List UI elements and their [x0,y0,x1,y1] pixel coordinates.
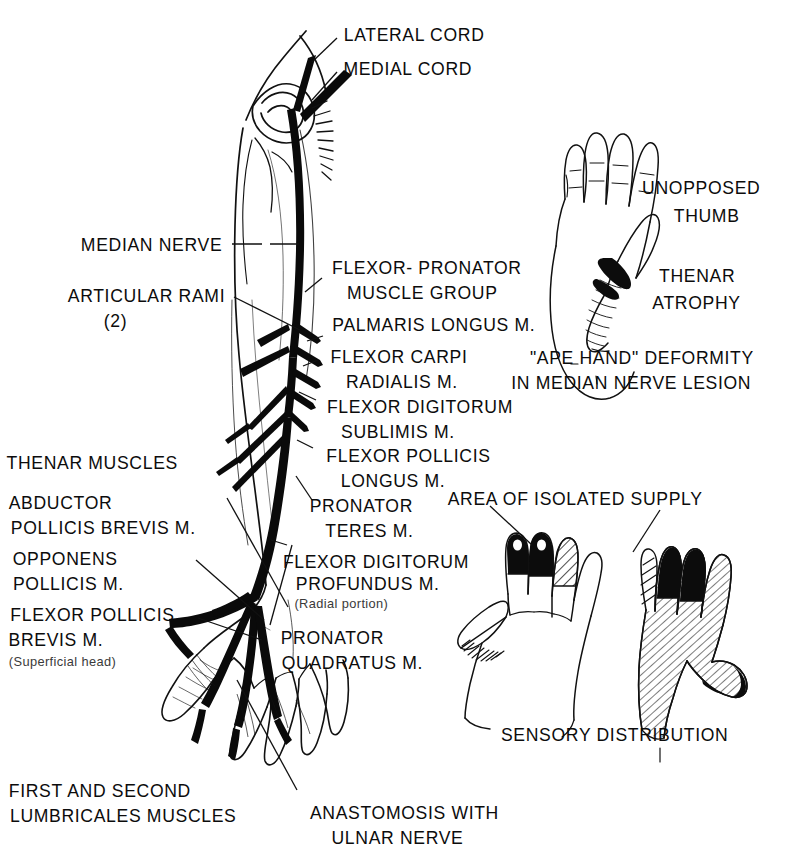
label-flexor-pollicis-brevis-note: (Superficial head) [9,653,116,671]
label-anastomosis-line1: ANASTOMOSIS WITH [310,800,499,825]
label-anastomosis-line2: ULNAR NERVE [331,825,463,850]
label-flexor-digitorum-profundus-line2: PROFUNDUS M. [296,571,440,596]
label-articular-rami-count: (2) [6,308,225,333]
label-flexor-pollicis-longus-line1: FLEXOR POLLICIS [326,443,490,468]
label-lateral-cord: LATERAL CORD [344,22,485,47]
label-medial-cord: MEDIAL CORD [343,56,472,81]
label-flexor-pollicis-brevis-line2: BREVIS M. [8,627,103,652]
label-flexor-digitorum-profundus-note: (Radial portion) [294,595,388,613]
label-flexor-digitorum-sublimis-line2: SUBLIMIS M. [341,419,455,444]
nerve-twigs-upper [312,101,333,180]
label-unopposed-thumb-line2: THUMB [674,203,740,228]
label-pronator-quadratus-line1: PRONATOR [281,625,384,650]
label-flexor-pollicis-brevis-line1: FLEXOR POLLICIS [10,602,174,627]
caption-sensory-distribution: SENSORY DISTRIBUTION [501,722,728,747]
label-pronator-teres-line1: PRONATOR [310,493,413,518]
label-thenar-muscles: THENAR MUSCLES [7,450,178,475]
label-abductor-pollicis-brevis-line1: ABDUCTOR [9,490,113,515]
articular-rami [240,324,290,377]
sensory-hand-dorsal [458,533,602,737]
label-lumbricales-line2: LUMBRICALES MUSCLES [10,803,237,828]
label-thenar-atrophy-line1: THENAR [659,263,735,288]
label-unopposed-thumb-line1: UNOPPOSED [642,175,760,200]
label-flexor-pronator-group-line1: FLEXOR- PRONATOR [332,255,522,280]
label-opponens-pollicis-line1: OPPONENS [13,546,118,571]
nerve-palmar-branches [165,592,292,760]
label-articular-rami: ARTICULAR RAMI [6,283,225,308]
label-abductor-pollicis-brevis-line2: POLLICIS BREVIS M. [11,515,196,540]
label-opponens-pollicis-line2: POLLICIS M. [13,571,124,596]
label-flexor-pollicis-longus-line2: LONGUS M. [341,468,446,493]
label-flexor-digitorum-sublimis-line1: FLEXOR DIGITORUM [327,394,513,419]
label-pronator-quadratus-line2: QUADRATUS M. [282,650,423,675]
label-flexor-pronator-group-line2: MUSCLE GROUP [347,280,498,305]
label-median-nerve: MEDIAN NERVE [6,232,223,257]
caption-ape-hand-line2: IN MEDIAN NERVE LESION [511,370,751,395]
label-palmaris-longus: PALMARIS LONGUS M. [332,312,535,337]
label-pronator-teres-line2: TERES M. [325,518,413,543]
label-area-of-isolated-supply: AREA OF ISOLATED SUPPLY [448,486,703,511]
caption-ape-hand-line1: "APE HAND" DEFORMITY [530,345,754,370]
label-lumbricales-line1: FIRST AND SECOND [9,778,191,803]
label-flexor-carpi-radialis-line1: FLEXOR CARPI [331,344,468,369]
label-flexor-carpi-radialis-line2: RADIALIS M. [346,369,458,394]
label-thenar-atrophy-line2: ATROPHY [652,290,740,315]
